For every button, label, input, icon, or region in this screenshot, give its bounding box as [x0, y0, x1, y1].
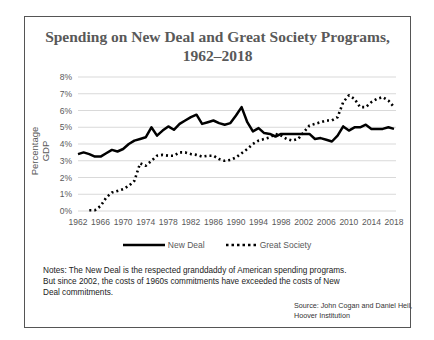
y-tick-label: 8% [60, 72, 73, 82]
x-tick-label: 2006 [317, 217, 336, 227]
legend-label-great-society: Great Society [260, 240, 312, 250]
source-line-2: Hoover Institution [294, 311, 414, 321]
y-tick-label: 7% [60, 89, 73, 99]
new-deal-line [78, 107, 394, 157]
chart-source: Source: John Cogan and Daniel Heil, Hoov… [294, 301, 414, 321]
y-tick-label: 1% [60, 189, 73, 199]
y-tick-label: 3% [60, 156, 73, 166]
x-tick-label: 2010 [339, 217, 358, 227]
x-tick-label: 2014 [362, 217, 381, 227]
x-tick-label: 2018 [385, 217, 404, 227]
x-tick-label: 1982 [181, 217, 200, 227]
legend-label-new-deal: New Deal [168, 240, 205, 250]
x-tick-label: 1998 [272, 217, 291, 227]
x-tick-label: 1970 [114, 217, 133, 227]
x-tick-label: 1974 [136, 217, 155, 227]
y-tick-label: 2% [60, 173, 73, 183]
source-line-1: Source: John Cogan and Daniel Heil, [294, 301, 414, 311]
great-society-line [89, 95, 394, 210]
solid-line-swatch-icon [123, 242, 165, 248]
x-tick-label: 1986 [204, 217, 223, 227]
data-series [78, 95, 394, 210]
x-tick-label: 2002 [294, 217, 313, 227]
legend-item-great-society: Great Society [225, 240, 312, 250]
gridlines [78, 77, 396, 211]
dotted-line-swatch-icon [225, 242, 257, 248]
x-tick-label: 1978 [159, 217, 178, 227]
x-tick-label: 1966 [91, 217, 110, 227]
chart-legend: New Deal Great Society [0, 240, 434, 250]
x-tick-label: 1962 [69, 217, 88, 227]
x-tick-label: 1990 [227, 217, 246, 227]
y-tick-label: 5% [60, 122, 73, 132]
y-tick-label: 4% [60, 139, 73, 149]
y-axis-ticks: 0%1%2%3%4%5%6%7%8% [60, 72, 73, 216]
legend-item-new-deal: New Deal [123, 240, 205, 250]
x-tick-label: 1994 [249, 217, 268, 227]
chart-notes: Notes: The New Deal is the respected gra… [43, 265, 353, 298]
x-axis-ticks: 1962196619701974197819821986199019941998… [69, 217, 404, 227]
y-tick-label: 6% [60, 106, 73, 116]
y-tick-label: 0% [60, 206, 73, 216]
